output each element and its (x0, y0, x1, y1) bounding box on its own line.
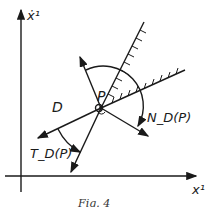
hatching (108, 30, 178, 103)
figure-caption: Fig. 4 (77, 197, 110, 207)
boundary-ray-upper (101, 22, 144, 108)
normal-cone-arc (86, 66, 143, 126)
region-label: D (52, 99, 63, 115)
cone-diagram: ẋ¹ x¹ P D N_D(P) T_D(P) Fig. 4 (0, 0, 207, 207)
tangent-arrow-left (38, 108, 101, 138)
tangent-cone-label: T_D(P) (30, 146, 72, 161)
x-axis-label: x¹ (191, 182, 205, 197)
normal-arrow-down (101, 108, 148, 136)
tangent-arrow-down (71, 108, 101, 172)
point-label: P (97, 88, 106, 104)
normal-cone-label: N_D(P) (147, 110, 191, 125)
y-axis-label: ẋ¹ (26, 8, 40, 23)
